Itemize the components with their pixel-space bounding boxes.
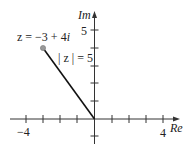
point-z-label-i: i xyxy=(67,30,70,44)
imag-axis-label: Im xyxy=(78,9,91,21)
modulus-label: | z | = 5 xyxy=(58,52,93,64)
real-tick-label-neg4: −4 xyxy=(17,126,30,138)
point-z-marker xyxy=(40,45,45,50)
imag-tick-label-5: 5 xyxy=(81,25,87,37)
point-z-label: z = −3 + 4i xyxy=(17,31,70,43)
complex-plane-diagram: Im 5 z = −3 + 4i | z | = 5 −4 4 Re xyxy=(0,0,190,156)
real-axis-label: Re xyxy=(170,122,183,134)
real-tick-label-4: 4 xyxy=(160,127,166,139)
point-z-label-text: z = −3 + 4 xyxy=(17,30,67,44)
imag-axis-arrow-icon xyxy=(92,11,97,18)
